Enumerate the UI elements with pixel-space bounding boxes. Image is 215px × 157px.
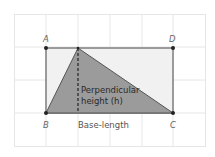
label-b: B xyxy=(43,120,49,130)
triangle-area-diagram: A D B C Perpendicular height (h) Base-le… xyxy=(0,0,215,157)
label-c: C xyxy=(170,120,176,130)
label-a: A xyxy=(42,34,49,44)
height-label-line1: Perpendicular xyxy=(81,85,140,95)
point-c xyxy=(171,111,175,115)
point-a xyxy=(44,46,48,50)
label-d: D xyxy=(169,34,176,44)
point-apex xyxy=(77,47,80,50)
height-label-line2: height (h) xyxy=(81,96,123,106)
base-length-label: Base-length xyxy=(78,120,129,130)
point-b xyxy=(44,111,48,115)
point-d xyxy=(171,46,175,50)
